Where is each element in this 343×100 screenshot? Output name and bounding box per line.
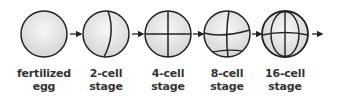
eight-cell-embryo-icon — [204, 11, 250, 57]
stage-label-line2: stage — [250, 80, 320, 93]
cleavage-diagram: fertilized egg 2-cell stage 4-cell stage… — [0, 0, 343, 100]
stage-label-fertilized-egg: fertilized egg — [9, 67, 79, 93]
stage-label-line2: egg — [9, 80, 79, 93]
stage-label-line1: fertilized — [9, 67, 79, 80]
four-cell-embryo-icon — [145, 11, 191, 57]
stage-label-line1: 2-cell — [71, 67, 141, 80]
stage-label-2-cell: 2-cell stage — [71, 67, 141, 93]
two-cell-embryo-icon — [83, 11, 129, 57]
stage-label-line1: 16-cell — [250, 67, 320, 80]
fertilized-egg-icon — [21, 11, 67, 57]
stage-label-line2: stage — [71, 80, 141, 93]
stage-label-16-cell: 16-cell stage — [250, 67, 320, 93]
sixteen-cell-embryo-icon — [262, 11, 308, 57]
